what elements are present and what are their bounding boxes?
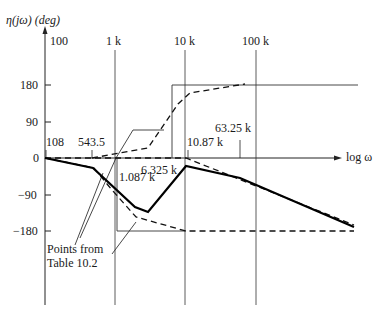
note-line-1: Points from (47, 243, 103, 256)
annot-543: 543.5 (78, 136, 105, 149)
chart-plot-area (0, 0, 386, 321)
y-label-neg180: −180 (13, 225, 38, 238)
annot-10870: 10.87 k (187, 136, 223, 149)
bode-phase-chart: η(jω) (deg) 100 1 k 10 k 100 k 180 90 0 … (0, 0, 386, 321)
x-axis-title: log ω (346, 151, 372, 164)
y-axis-arrow-icon (43, 26, 48, 34)
leader-line-2 (112, 222, 136, 254)
annot-6325: 6.325 k (141, 164, 177, 177)
total-phase-curve (45, 158, 354, 227)
y-axis-title: η(jω) (deg) (6, 14, 60, 27)
leader-line-1 (75, 173, 103, 245)
annot-63250: 63.25 k (215, 122, 251, 135)
x-axis-arrow-icon (334, 156, 342, 161)
x-label-10k: 10 k (174, 35, 195, 48)
y-label-neg90: −90 (18, 189, 37, 202)
y-label-180: 180 (20, 79, 38, 92)
x-label-100k: 100 k (242, 35, 269, 48)
x-label-1k: 1 k (106, 35, 121, 48)
note-line-2: Table 10.2 (47, 257, 97, 270)
x-label-100: 100 (50, 35, 68, 48)
annot-108: 108 (46, 136, 64, 149)
y-label-0: 0 (33, 152, 39, 165)
y-label-90: 90 (26, 116, 38, 129)
